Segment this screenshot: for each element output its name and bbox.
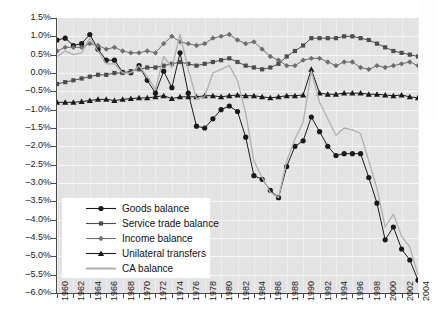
y-axis-tick-label: –0.5% <box>5 86 51 95</box>
x-axis-tick <box>106 293 107 298</box>
data-point <box>218 34 223 39</box>
data-point <box>268 65 272 69</box>
data-point <box>210 35 215 40</box>
data-point <box>415 278 418 283</box>
legend-label: Unilateral transfers <box>122 248 206 259</box>
y-axis-tick <box>51 128 56 129</box>
data-point <box>235 37 240 42</box>
data-point <box>382 65 387 70</box>
legend-item: CA balance <box>62 261 210 276</box>
y-axis-tick-label: –4.5% <box>5 233 51 242</box>
data-point <box>325 59 330 64</box>
data-point <box>358 151 363 156</box>
x-axis-tick <box>221 293 222 298</box>
data-point <box>161 69 166 74</box>
data-point <box>178 60 182 64</box>
data-point <box>416 54 418 58</box>
y-axis-tick-label: –1.0% <box>5 105 51 114</box>
data-point <box>317 56 322 61</box>
data-point <box>218 107 223 112</box>
y-axis-tick <box>51 36 56 37</box>
y-axis-tick-label: –2.5% <box>5 160 51 169</box>
legend-symbol <box>84 246 118 261</box>
data-point <box>194 124 199 129</box>
data-point <box>383 237 388 242</box>
data-point <box>177 50 182 55</box>
x-axis-tick <box>418 293 419 298</box>
y-axis-tick <box>51 73 56 74</box>
legend-label: Income balance <box>122 233 193 244</box>
data-point <box>293 49 297 53</box>
x-axis-tick <box>270 293 271 298</box>
data-point <box>112 71 116 75</box>
data-point <box>300 92 306 98</box>
data-point <box>391 63 396 68</box>
data-point <box>203 62 207 66</box>
legend-item: Service trade balance <box>62 216 210 231</box>
data-point <box>194 64 198 68</box>
data-point <box>145 65 149 69</box>
data-point <box>415 63 418 68</box>
legend-symbol <box>84 216 118 231</box>
y-axis-tick <box>51 146 56 147</box>
x-axis-tick <box>287 293 288 298</box>
data-point <box>333 63 338 68</box>
data-point <box>350 151 355 156</box>
legend-item: Unilateral transfers <box>62 246 210 261</box>
y-axis-tick <box>51 238 56 239</box>
data-point <box>227 56 231 60</box>
data-point <box>407 257 412 262</box>
data-point <box>341 59 346 64</box>
y-axis-tick <box>51 293 56 294</box>
data-point <box>96 73 100 77</box>
legend-label: Service trade balance <box>122 218 219 229</box>
data-point <box>104 73 108 77</box>
y-axis-tick-label: 1.0% <box>5 31 51 40</box>
x-axis-tick <box>320 293 321 298</box>
data-point <box>398 92 404 98</box>
x-axis-tick <box>352 293 353 298</box>
y-axis-tick <box>51 91 56 92</box>
data-point <box>251 173 256 178</box>
data-point <box>399 61 404 66</box>
y-axis-tick-label: –1.5% <box>5 123 51 132</box>
data-point <box>194 43 199 48</box>
chart-figure: 1.5%1.0%0.5%0.0%–0.5%–1.0%–1.5%–2.0%–2.5… <box>0 0 438 335</box>
data-point <box>367 38 371 42</box>
data-point <box>234 92 240 98</box>
data-point <box>292 63 297 68</box>
data-point <box>63 80 67 84</box>
data-point <box>252 65 256 69</box>
legend-item: Goods balance <box>62 201 210 216</box>
data-point <box>243 135 248 140</box>
data-point <box>374 201 379 206</box>
x-axis-tick <box>336 293 337 298</box>
x-axis-tick <box>155 293 156 298</box>
data-point <box>104 46 109 51</box>
data-point <box>350 59 355 64</box>
data-point <box>325 144 330 149</box>
data-point <box>284 63 289 68</box>
legend-item: Income balance <box>62 231 210 246</box>
x-axis-tick <box>123 293 124 298</box>
data-point <box>244 64 248 68</box>
y-axis-tick <box>51 18 56 19</box>
data-point <box>309 36 313 40</box>
y-axis-tick-label: –5.5% <box>5 270 51 279</box>
data-point <box>128 50 133 55</box>
data-point <box>342 34 346 38</box>
y-axis-tick <box>51 183 56 184</box>
data-point <box>309 114 314 119</box>
y-axis-labels: 1.5%1.0%0.5%0.0%–0.5%–1.0%–1.5%–2.0%–2.5… <box>0 0 51 335</box>
data-point <box>334 36 338 40</box>
data-point <box>366 67 371 72</box>
data-point <box>169 85 174 90</box>
data-point <box>120 48 125 53</box>
data-point <box>186 41 191 46</box>
x-axis-tick <box>90 293 91 298</box>
y-axis-tick <box>51 110 56 111</box>
y-axis-tick <box>51 201 56 202</box>
data-point <box>63 45 68 50</box>
data-point <box>80 76 84 80</box>
x-axis-tick <box>238 293 239 298</box>
